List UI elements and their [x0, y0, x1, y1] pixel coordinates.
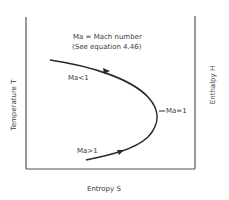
- x-axis-label: Entropy S: [87, 185, 121, 193]
- fanno-line-diagram: Ma = Mach number (See equation 4.46) Ma<…: [0, 0, 229, 200]
- label-sonic: Ma=1: [166, 107, 187, 115]
- arrow-supersonic-icon: [117, 150, 124, 155]
- y-axis-left-label: Temperature T: [10, 79, 18, 132]
- label-subsonic: Ma<1: [68, 74, 89, 82]
- legend-line-1: Ma = Mach number: [73, 33, 142, 41]
- y-axis-right-label: Enthalpy H: [209, 66, 217, 104]
- label-supersonic: Ma>1: [77, 147, 98, 155]
- legend-line-2: (See equation 4.46): [72, 43, 142, 51]
- fanno-curve: [50, 60, 157, 160]
